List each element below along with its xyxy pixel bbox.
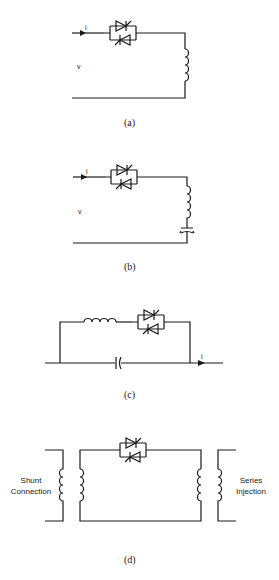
shunt-label-line1: Shunt bbox=[21, 476, 43, 485]
thyristor-pair-icon bbox=[104, 21, 142, 45]
series-primary-winding bbox=[218, 450, 236, 521]
left-wire bbox=[60, 322, 84, 363]
inductor-icon bbox=[185, 49, 189, 81]
voltage-label: v bbox=[78, 208, 82, 215]
inductor-icon bbox=[84, 319, 116, 322]
inductor-icon bbox=[187, 186, 191, 228]
top-wire-right bbox=[152, 450, 201, 469]
right-wire bbox=[170, 322, 190, 363]
series-label-line1: Series bbox=[240, 476, 263, 485]
caption-c: (c) bbox=[124, 389, 135, 401]
shunt-label-line2: Connection bbox=[11, 487, 51, 496]
caption-b: (b) bbox=[124, 261, 136, 273]
shunt-primary-winding bbox=[45, 450, 63, 521]
circuit-figure: i v (a) i v (b) i (c) bbox=[0, 0, 279, 580]
panel-d: Shunt Connection Series Injection (d) bbox=[11, 438, 266, 566]
caption-a: (a) bbox=[124, 117, 135, 129]
shunt-secondary-winding bbox=[80, 469, 84, 501]
panel-a: i v (a) bbox=[72, 21, 189, 129]
panel-b: i v (b) bbox=[73, 165, 194, 273]
caption-d: (d) bbox=[124, 554, 136, 566]
series-secondary-winding bbox=[80, 469, 201, 521]
top-wire bbox=[142, 33, 185, 49]
current-arrow-icon bbox=[198, 360, 205, 366]
current-label: i bbox=[85, 24, 87, 31]
thyristor-pair-icon bbox=[105, 165, 143, 189]
return-wire bbox=[72, 81, 185, 98]
top-wire-left bbox=[80, 450, 114, 469]
current-label: i bbox=[201, 353, 203, 360]
return-wire bbox=[73, 232, 187, 243]
thyristor-pair-icon bbox=[114, 438, 152, 462]
capacitor-icon bbox=[116, 357, 121, 369]
thyristor-pair-icon bbox=[132, 310, 170, 334]
current-label: i bbox=[86, 168, 88, 175]
top-wire bbox=[143, 177, 187, 186]
panel-c: i (c) bbox=[45, 310, 223, 401]
series-label-line2: Injection bbox=[236, 487, 266, 496]
voltage-label: v bbox=[77, 63, 81, 70]
